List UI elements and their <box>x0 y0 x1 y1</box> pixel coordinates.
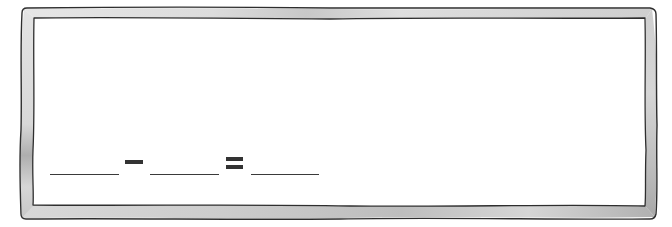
minuend-blank[interactable] <box>50 174 119 175</box>
equals-bar-top <box>226 157 243 161</box>
subtrahend-blank[interactable] <box>150 174 219 175</box>
equals-bar-bottom <box>226 165 243 169</box>
subtraction-equation: − = <box>0 0 672 227</box>
minus-sign: − <box>125 160 143 164</box>
difference-blank[interactable] <box>251 174 319 175</box>
equals-sign: = <box>226 157 243 169</box>
